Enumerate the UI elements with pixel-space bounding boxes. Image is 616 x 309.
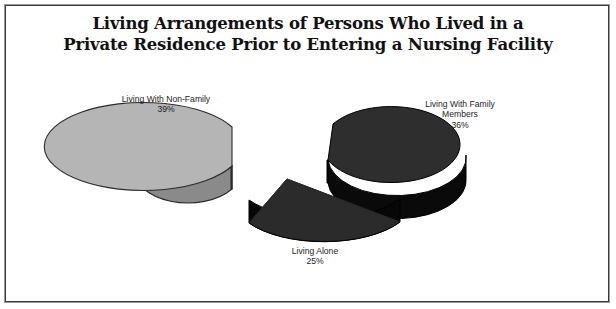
slice-label-name-family-2: Members [380,109,540,119]
slice-label-living-with-family-members: Living With Family Members 36% [380,99,540,130]
slice-label-name-non-family: Living With Non-Family [86,94,246,104]
pie-chart: Living With Non-Family 39% Living With F… [0,0,616,309]
slice-top-non-family [44,103,232,191]
slice-label-living-alone: Living Alone 25% [235,246,395,267]
slice-label-percent-alone: 25% [235,256,395,266]
slice-label-name-alone: Living Alone [235,246,395,256]
chart-figure: Living Arrangements of Persons Who Lived… [0,0,616,309]
slice-label-living-with-non-family: Living With Non-Family 39% [86,94,246,115]
slice-radial-face-family [327,160,328,183]
slice-label-name-family-1: Living With Family [380,99,540,109]
pie-slice-living-alone [249,179,400,242]
slice-label-percent-non-family: 39% [86,104,246,114]
slice-label-percent-family: 36% [380,120,540,130]
pie-slice-living-with-non-family [44,103,232,203]
slice-radial-face-non-family [231,166,232,189]
